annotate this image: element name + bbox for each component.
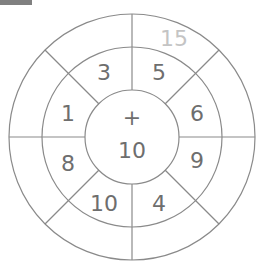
outer-cell-top-right: 15 <box>160 26 188 51</box>
spoke-top-left <box>45 50 99 104</box>
middle-cell-right-upper: 6 <box>190 101 204 126</box>
center-operator: + <box>123 105 141 130</box>
number-wheel: + 10 3 5 6 9 4 10 8 1 15 <box>0 0 262 262</box>
middle-cell-left-upper: 1 <box>61 101 75 126</box>
center-value: 10 <box>118 138 146 163</box>
middle-cell-bottom-left: 10 <box>90 191 118 216</box>
middle-cell-left-lower: 8 <box>61 151 75 176</box>
middle-cell-bottom-right: 4 <box>152 191 166 216</box>
middle-cell-top-right: 5 <box>152 60 166 85</box>
middle-cell-right-lower: 9 <box>190 148 204 173</box>
middle-cell-top-left: 3 <box>97 60 111 85</box>
spoke-top-right <box>165 50 219 104</box>
spoke-bottom-right <box>165 170 219 224</box>
